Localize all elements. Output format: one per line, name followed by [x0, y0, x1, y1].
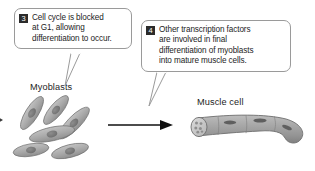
myoblast-cell — [28, 123, 76, 146]
callout-step-3-tail — [58, 53, 88, 87]
muscle-cell-label: Muscle cell — [197, 97, 244, 107]
callout-step-3-text: Cell cycle is blocked at G1, allowing di… — [32, 13, 112, 44]
differentiation-arrow-icon — [108, 117, 174, 133]
callout-step-3-badge: 3 — [19, 14, 28, 23]
figure-canvas: 3 Cell cycle is blocked at G1, allowing … — [0, 0, 315, 171]
callout-step-4-text: Other transcription factors are involved… — [159, 25, 253, 67]
myoblast-cell — [17, 94, 48, 133]
myoblast-cell — [50, 140, 90, 162]
callout-step-4-tail — [143, 72, 177, 108]
callout-step-4: 4 Other transcription factors are involv… — [141, 20, 291, 72]
muscle-cut-end — [191, 117, 207, 136]
myoblast-cell — [12, 141, 49, 159]
myoblasts-illustration — [8, 94, 118, 166]
callout-step-3: 3 Cell cycle is blocked at G1, allowing … — [14, 8, 132, 49]
callout-step-4-badge: 4 — [146, 26, 155, 35]
muscle-cell-illustration — [188, 110, 312, 156]
